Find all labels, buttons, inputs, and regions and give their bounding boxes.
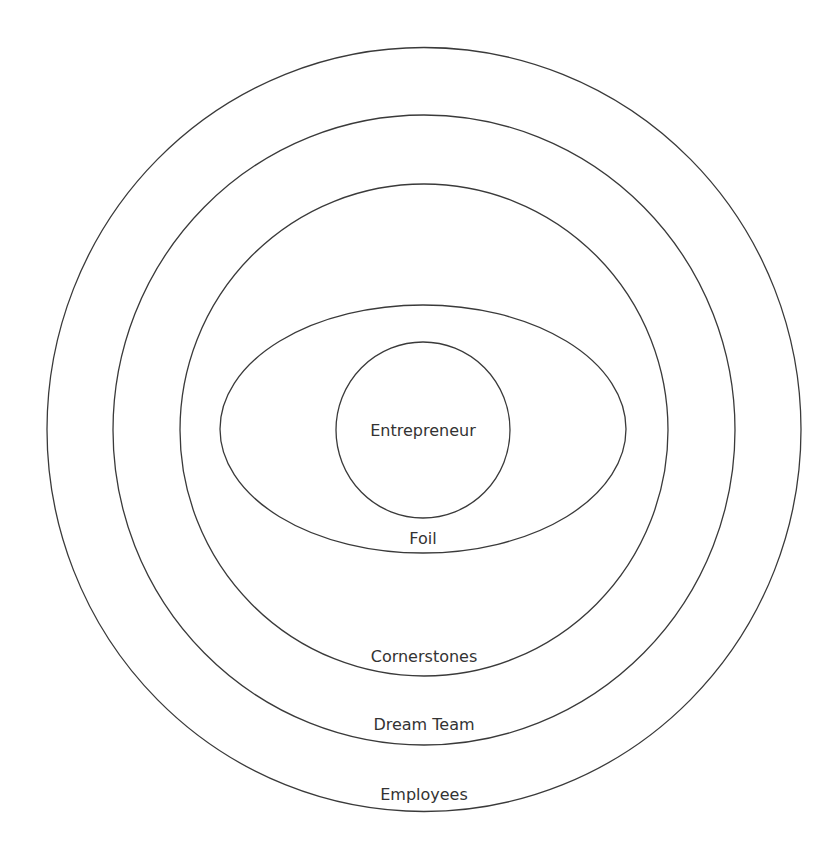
nested-circles-diagram: Employees Dream Team Cornerstones Foil E… <box>0 0 840 858</box>
cornerstones-label: Cornerstones <box>371 647 478 666</box>
entrepreneur-label: Entrepreneur <box>370 421 476 440</box>
ring-entrepreneur: Entrepreneur <box>336 342 510 518</box>
employees-label: Employees <box>380 785 468 804</box>
foil-label: Foil <box>409 529 436 548</box>
dream-team-label: Dream Team <box>373 715 474 734</box>
